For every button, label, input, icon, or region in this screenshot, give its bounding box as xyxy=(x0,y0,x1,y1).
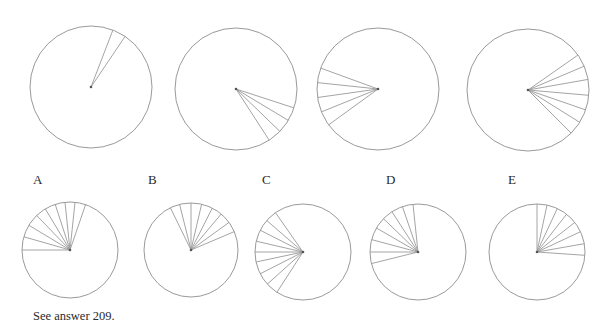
spoke-line xyxy=(318,89,378,98)
sequence-top-1 xyxy=(30,26,152,148)
center-point xyxy=(69,249,72,252)
spoke-line xyxy=(276,213,304,252)
center-point xyxy=(527,89,530,92)
spoke-line xyxy=(91,30,113,87)
spoke-line xyxy=(236,89,269,140)
spoke-line xyxy=(528,90,571,133)
spoke-line xyxy=(528,90,580,122)
option-label-b: B xyxy=(148,172,157,188)
spoke-line xyxy=(236,89,280,131)
center-point xyxy=(235,88,238,91)
option-a[interactable] xyxy=(22,202,118,298)
spoke-line xyxy=(537,252,585,255)
option-b[interactable] xyxy=(144,203,238,297)
center-point xyxy=(302,251,305,254)
spoke-line xyxy=(371,252,418,264)
option-e[interactable] xyxy=(489,204,585,300)
option-d[interactable] xyxy=(370,204,466,300)
spoke-line xyxy=(528,79,588,90)
option-label-d: D xyxy=(386,172,395,188)
spoke-line xyxy=(528,66,584,90)
center-point xyxy=(536,251,539,254)
spoke-line xyxy=(329,89,378,125)
spoke-line xyxy=(256,252,303,262)
spoke-line xyxy=(537,244,584,252)
spoke-line xyxy=(180,204,191,250)
spoke-line xyxy=(236,89,288,120)
spoke-line xyxy=(528,90,586,110)
spoke-line xyxy=(256,241,303,252)
center-point xyxy=(90,86,93,89)
spoke-line xyxy=(321,89,378,112)
option-label-a: A xyxy=(33,172,42,188)
option-label-c: C xyxy=(262,172,271,188)
sequence-top-2 xyxy=(175,28,297,150)
option-c[interactable] xyxy=(255,204,351,300)
spoke-line xyxy=(170,208,191,250)
center-point xyxy=(190,249,193,252)
spoke-line xyxy=(260,252,303,274)
center-point xyxy=(417,251,420,254)
spoke-line xyxy=(236,89,294,108)
option-label-e: E xyxy=(508,172,516,188)
center-point xyxy=(377,88,380,91)
puzzle-figure xyxy=(0,0,609,325)
spoke-line xyxy=(91,36,125,87)
sequence-top-4 xyxy=(467,29,589,151)
answer-reference-caption: See answer 209. xyxy=(33,309,115,324)
spoke-line xyxy=(528,90,589,95)
sequence-top-3 xyxy=(317,28,439,150)
circle-sequence-diagram xyxy=(0,0,609,325)
spoke-line xyxy=(528,55,578,90)
